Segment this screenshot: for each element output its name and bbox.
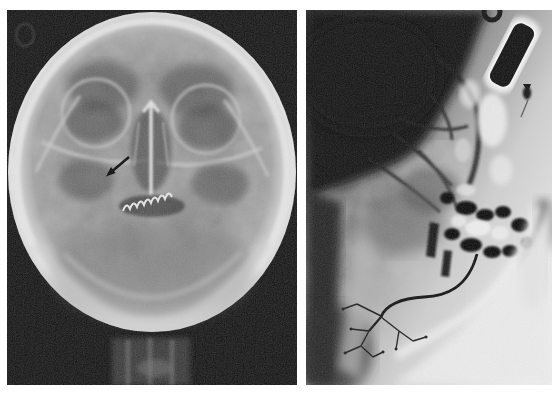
radiograph-plate (0, 0, 554, 399)
panel-lateral-sialogram (292, 4, 554, 395)
left-film-grain (7, 10, 297, 385)
right-film-grain (306, 10, 552, 385)
plate-canvas (0, 0, 554, 399)
panel-frontal-skull-xray (7, 10, 298, 385)
